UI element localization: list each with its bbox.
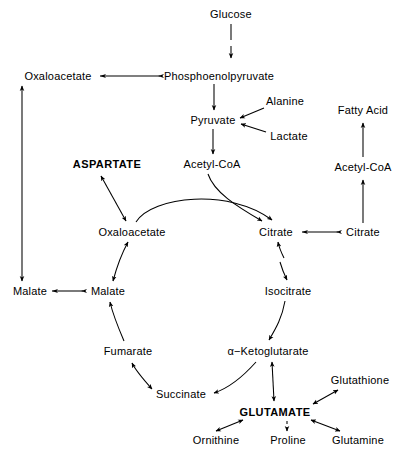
node-fatty_acid: Fatty Acid (338, 105, 388, 116)
node-proline: Proline (270, 435, 306, 446)
edge-aspartate-oxaloacetate-in (101, 176, 126, 221)
node-malate_out: Malate (13, 286, 47, 297)
edge-succinate-fumarate (132, 363, 152, 389)
node-succinate: Succinate (156, 389, 206, 400)
edge-malate-in-to-malate-out (52, 289, 87, 293)
edge-acetyl-coa-to-citrate (208, 174, 262, 221)
node-alanine: Alanine (266, 96, 304, 107)
metabolic-pathway-diagram: GlucoseOxaloacetatePhosphoenolpyruvateAl… (0, 0, 414, 456)
node-pep: Phosphoenolpyruvate (164, 71, 274, 82)
edge-malate-in-oxaloacetate-in (113, 242, 128, 281)
edge-fumarate-to-malate-in (110, 302, 124, 341)
node-pyruvate: Pyruvate (190, 115, 235, 126)
edge-lactate-to-pyruvate (241, 124, 266, 132)
node-glutathione: Glutathione (331, 375, 389, 386)
node-glucose: Glucose (210, 9, 252, 20)
edge-pep-to-oxaloacetate-out (100, 74, 164, 78)
node-oxaloacetate_in: Oxaloacetate (98, 227, 165, 238)
edge-glutamate-glutamine (311, 420, 340, 431)
node-acetyl_coa_cyto: Acetyl-CoA (334, 162, 391, 173)
edge-citrate-isocitrate (278, 242, 287, 280)
node-citrate_out: Citrate (346, 227, 380, 238)
edge-isocitrate-to-ketoglutarate (269, 301, 285, 340)
edge-glutathione-glutamate (313, 390, 338, 404)
node-lactate: Lactate (270, 131, 307, 142)
edge-citrate-out-to-citrate-in (302, 230, 342, 234)
node-glutamate: GLUTAMATE (239, 407, 310, 418)
node-isocitrate: Isocitrate (265, 286, 312, 297)
node-ornithine: Ornithine (193, 435, 239, 446)
edge-glutamate-ornithine (216, 420, 243, 431)
node-oxaloacetate_out: Oxaloacetate (24, 71, 91, 82)
node-fumarate: Fumarate (104, 346, 153, 357)
edge-oxaloacetate-in-to-citrate (136, 199, 272, 222)
edge-ketoglutarate-glutamate (272, 362, 274, 401)
node-aspartate: ASPARTATE (73, 159, 141, 170)
node-ketoglutarate: α−Ketoglutarate (227, 346, 308, 357)
node-citrate_in: Citrate (259, 227, 293, 238)
node-malate_in: Malate (91, 286, 125, 297)
edge-ketoglutarate-to-succinate (214, 362, 256, 393)
node-acetyl_coa_mito: Acetyl-CoA (183, 159, 240, 170)
node-glutamine: Glutamine (332, 435, 384, 446)
edge-alanine-to-pyruvate (240, 108, 264, 118)
